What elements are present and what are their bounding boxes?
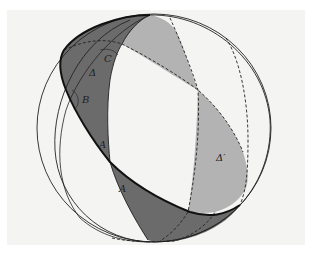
label-angle-a-lower: A xyxy=(118,183,126,194)
sphere-diagram: C Δ B A A Δ′ xyxy=(0,0,316,257)
label-angle-c: C xyxy=(104,53,112,64)
label-angle-a-upper: A xyxy=(98,139,106,150)
label-delta-prime: Δ′ xyxy=(215,152,226,163)
label-angle-b: B xyxy=(81,94,89,105)
label-delta: Δ xyxy=(88,67,96,78)
